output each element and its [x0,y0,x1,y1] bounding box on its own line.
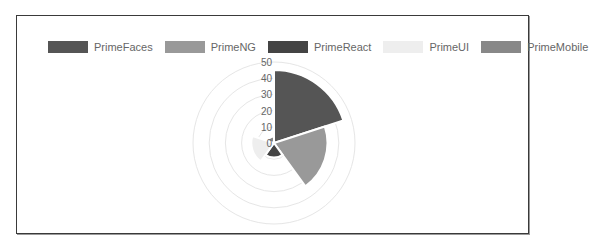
radial-tick-label: 50 [261,57,273,68]
radial-tick-label: 0 [266,138,272,149]
radial-tick-label: 40 [261,73,273,84]
radial-tick-label: 30 [261,89,273,100]
radial-ticks: 01020304050 [261,57,273,149]
radial-tick-label: 10 [261,122,273,133]
radial-tick-label: 20 [261,106,273,117]
